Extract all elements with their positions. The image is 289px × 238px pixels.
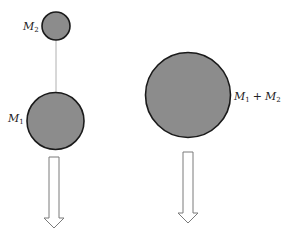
mass-m2-label: M2 bbox=[22, 20, 39, 34]
mass-m1-label: M1 bbox=[7, 112, 24, 126]
mass-m2-body bbox=[42, 12, 70, 40]
diagram-canvas: M2 M1 M1+M2 bbox=[0, 0, 289, 238]
down-arrow-icon bbox=[44, 157, 64, 228]
combined-mass-label: M1+M2 bbox=[233, 90, 281, 104]
mass-m1-body bbox=[27, 93, 84, 150]
combined-mass-body bbox=[146, 53, 231, 138]
down-arrow-icon bbox=[178, 152, 198, 223]
